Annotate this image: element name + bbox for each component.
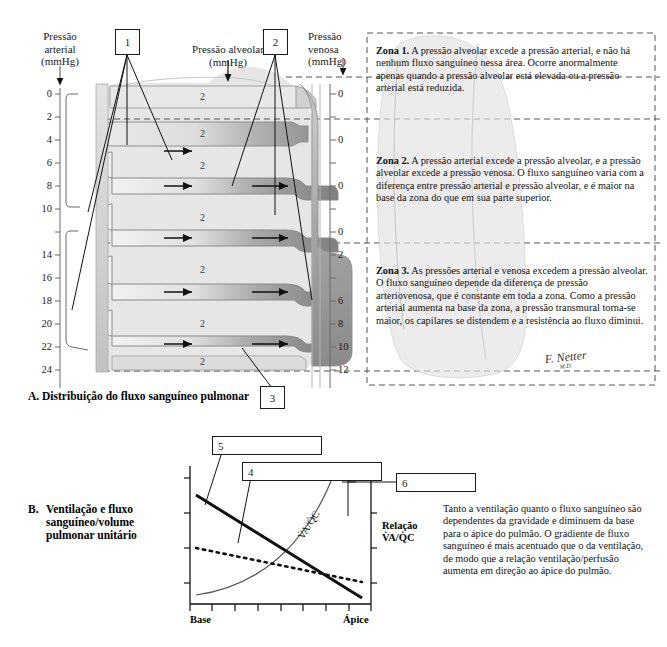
panel-b-caption-line1: Ventilação e fluxo xyxy=(46,503,178,516)
figure-page: Pressão arterial (mmHg) 0 2 4 6 8 10 14 … xyxy=(0,0,667,647)
chart-x-ticks xyxy=(190,604,371,611)
panel-b-caption-line2: sanguíneo/volume xyxy=(46,516,178,529)
alveolar-mass xyxy=(102,67,314,372)
callout-box-6-label: 6 xyxy=(402,477,408,489)
zone-3-name: Zona 3. xyxy=(376,265,409,276)
callout-box-4-label: 4 xyxy=(248,466,254,478)
zone-3-text: Zona 3. As pressões arterial e venosa ex… xyxy=(376,265,648,327)
ratio-label: Relação V̇A/Q̇C xyxy=(382,520,444,544)
left-tick-8: 8 xyxy=(20,180,52,191)
left-tick-14: 14 xyxy=(20,249,52,260)
capillary-label-2: 2 xyxy=(200,128,205,139)
left-tick-10: 10 xyxy=(20,203,52,214)
left-pressure-axis xyxy=(55,66,88,388)
left-tick-18: 18 xyxy=(20,295,52,306)
panel-b-caption-letter: B. xyxy=(28,503,39,516)
right-axis-title: Pressão venosa (mmHg) xyxy=(308,30,378,68)
panel-b-caption-line3: pulmonar unitário xyxy=(46,529,178,542)
callout-box-3[interactable]: 3 xyxy=(260,386,285,409)
zone-1-body: A pressão alveolar excede a pressão arte… xyxy=(376,45,630,93)
capillary-label-3: 2 xyxy=(200,160,205,171)
left-axis-title-line1: Pressão xyxy=(25,30,95,43)
right-axis-title-line2: venosa xyxy=(308,43,378,56)
ratio-label-line2: V̇A/Q̇C xyxy=(382,532,444,544)
right-axis-title-line3: (mmHg) xyxy=(308,55,378,68)
capillary-label-4: 2 xyxy=(200,212,205,223)
callout-box-2-label: 2 xyxy=(273,36,279,48)
chart-y-ticks-right xyxy=(371,478,377,583)
capillary-label-6: 2 xyxy=(200,318,205,329)
left-tick-0: 0 xyxy=(20,88,52,99)
right-tick-9: 10 xyxy=(338,341,362,352)
zone-2-name: Zona 2. xyxy=(376,155,409,166)
capillary-band xyxy=(112,356,306,370)
left-tick-22: 22 xyxy=(20,341,52,352)
right-tick-1: 0 xyxy=(338,88,362,99)
callout-box-5[interactable]: 5 xyxy=(212,436,322,455)
right-tick-2: 0 xyxy=(338,134,362,145)
callout-box-2[interactable]: 2 xyxy=(263,29,288,55)
left-axis-title-line3: (mmHg) xyxy=(25,55,95,68)
x-axis-label-base: Base xyxy=(190,614,211,625)
right-axis-title-line1: Pressão xyxy=(308,30,378,43)
left-tick-16: 16 xyxy=(20,272,52,283)
callout-box-3-label: 3 xyxy=(270,392,276,404)
zone-1-name: Zona 1. xyxy=(376,45,409,56)
panel-b-note: Tanto a ventilação quanto o fluxo sanguí… xyxy=(443,503,648,577)
zone-2-text: Zona 2. A pressão arterial excede a pres… xyxy=(376,155,648,205)
right-tick-10: 12 xyxy=(338,364,362,375)
series-va-qc-curve xyxy=(196,468,336,595)
callout-box-1[interactable]: 1 xyxy=(115,29,140,55)
right-tick-5: 2 xyxy=(338,249,362,260)
right-tick-4: 0 xyxy=(338,226,362,237)
left-axis-title-line2: arterial xyxy=(25,43,95,56)
x-axis-label-apice: Ápice xyxy=(343,614,369,625)
zone-3-body: As pressões arterial e venosa excedem a … xyxy=(376,265,648,326)
capillary-label-7: 2 xyxy=(200,356,205,367)
chart-axes xyxy=(190,466,371,604)
callout-box-5-label: 5 xyxy=(218,440,224,452)
left-tick-20: 20 xyxy=(20,318,52,329)
zone-1-text: Zona 1. A pressão alveolar excede a pres… xyxy=(376,45,648,95)
left-tick-6: 6 xyxy=(20,157,52,168)
zone-2-body: A pressão arterial excede a pressão alve… xyxy=(376,155,644,203)
capillary-band xyxy=(110,86,316,108)
capillary-label-1: 2 xyxy=(200,91,205,102)
panel-b-caption: B. Ventilação e fluxo sanguíneo/volume p… xyxy=(28,503,178,542)
right-tick-7: 6 xyxy=(338,295,362,306)
chart-y-ticks xyxy=(184,478,190,583)
arterial-trunk xyxy=(96,84,108,372)
ratio-label-line1: Relação xyxy=(382,520,444,532)
callout-box-6[interactable]: 6 xyxy=(396,473,476,492)
left-tick-4: 4 xyxy=(20,134,52,145)
capillary-label-5: 2 xyxy=(200,264,205,275)
left-tick-2: 2 xyxy=(20,111,52,122)
series-blood-flow-solid xyxy=(196,495,362,598)
left-axis-title: Pressão arterial (mmHg) xyxy=(25,30,95,68)
alveolar-axis-title-line2: (mmHg) xyxy=(163,56,293,69)
series-ventilation-dotted xyxy=(196,548,362,582)
left-tick-24: 24 xyxy=(20,364,52,375)
right-tick-3: 0 xyxy=(338,180,362,191)
capillary-band xyxy=(106,122,308,146)
callout-box-1-label: 1 xyxy=(125,36,131,48)
panel-a-caption: A. Distribuição do fluxo sanguíneo pulmo… xyxy=(28,390,249,403)
callout-box-4[interactable]: 4 xyxy=(242,462,382,481)
right-tick-8: 8 xyxy=(338,318,362,329)
